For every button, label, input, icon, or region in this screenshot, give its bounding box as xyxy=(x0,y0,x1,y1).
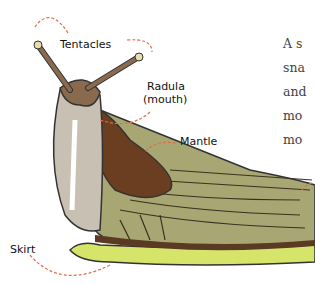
text-line-4: mo xyxy=(283,108,302,123)
text-line-3: and xyxy=(283,84,307,99)
text-line-5: mo xyxy=(283,132,302,147)
slug-illustration xyxy=(0,0,315,284)
label-mantle: Mantle xyxy=(180,135,217,148)
label-skirt: Skirt xyxy=(10,243,35,256)
label-tentacles: Tentacles xyxy=(60,38,111,51)
tentacles-arrow-right xyxy=(127,40,152,52)
tentacles-arrow-left xyxy=(34,18,68,33)
text-line-2: sna xyxy=(283,60,305,75)
label-radula: Radula xyxy=(147,80,185,93)
label-radula-mouth: (mouth) xyxy=(143,93,187,106)
text-line-1: A s xyxy=(283,36,302,51)
head-shape xyxy=(54,84,103,231)
